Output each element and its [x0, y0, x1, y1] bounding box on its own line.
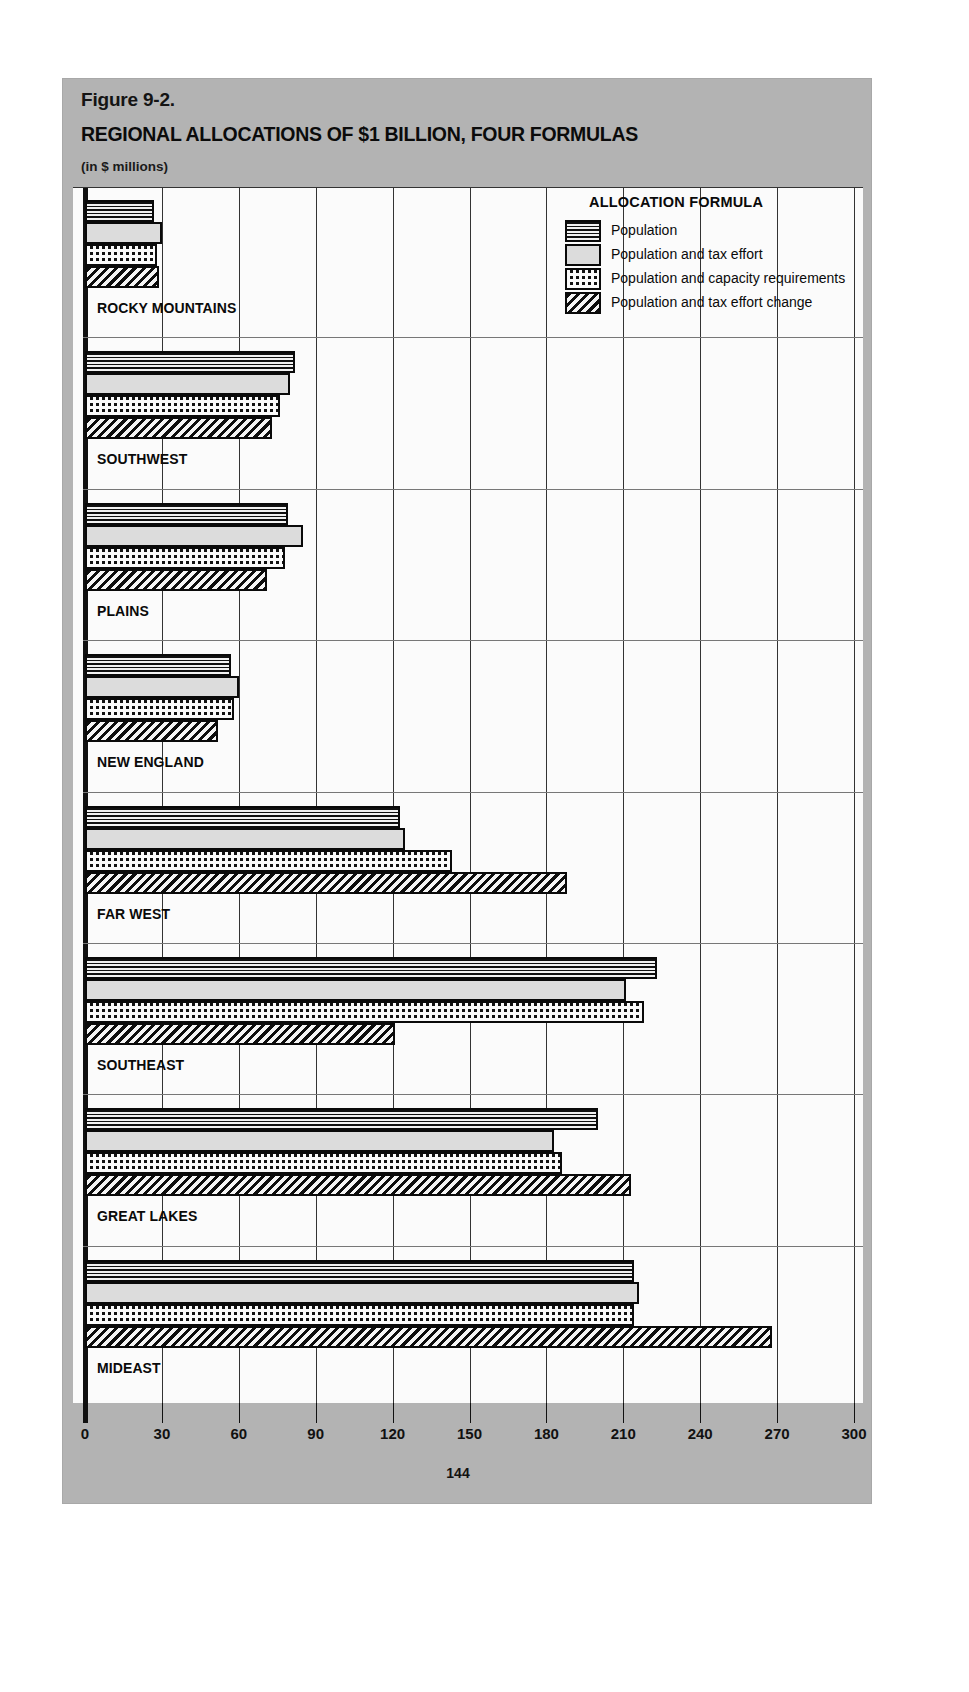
- figure-panel: Figure 9-2. REGIONAL ALLOCATIONS OF $1 B…: [62, 78, 872, 1504]
- bar: [85, 850, 452, 872]
- x-axis: 0306090120150180210240270300: [73, 1403, 863, 1461]
- x-tick-label-0: 0: [81, 1425, 89, 1442]
- bar: [85, 957, 657, 979]
- page-number: 144: [63, 1465, 853, 1481]
- bar: [85, 266, 159, 288]
- bar: [85, 720, 218, 742]
- category-label: SOUTHWEST: [97, 451, 187, 467]
- bar: [85, 698, 234, 720]
- x-tick-label-90: 90: [307, 1425, 324, 1442]
- legend-title: ALLOCATION FORMULA: [589, 194, 763, 210]
- category-label: FAR WEST: [97, 906, 170, 922]
- x-tick-label-150: 150: [457, 1425, 482, 1442]
- x-tick-30: [162, 1403, 163, 1423]
- x-tick-label-180: 180: [534, 1425, 559, 1442]
- gridline-90: [316, 188, 317, 1403]
- group-separator: [83, 792, 863, 793]
- legend-label: Population: [611, 222, 677, 238]
- bar: [85, 1023, 395, 1045]
- category-label: SOUTHEAST: [97, 1057, 184, 1073]
- legend-label: Population and tax effort change: [611, 294, 812, 310]
- bar: [85, 1326, 772, 1348]
- category-label: NEW ENGLAND: [97, 754, 204, 770]
- gridline-150: [470, 188, 471, 1403]
- figure-page: Figure 9-2. REGIONAL ALLOCATIONS OF $1 B…: [0, 0, 969, 1692]
- x-tick-210: [623, 1403, 624, 1423]
- bar: [85, 222, 162, 244]
- legend-label: Population and tax effort: [611, 246, 763, 262]
- x-tick-60: [239, 1403, 240, 1423]
- bar: [85, 1152, 562, 1174]
- bar: [85, 569, 267, 591]
- bar: [85, 351, 295, 373]
- chart-plot-area: ROCKY MOUNTAINSSOUTHWESTPLAINSNEW ENGLAN…: [73, 187, 863, 1403]
- group-separator: [83, 1094, 863, 1095]
- bar: [85, 676, 239, 698]
- gridline-240: [700, 188, 701, 1403]
- bar: [85, 200, 154, 222]
- bar: [85, 806, 400, 828]
- x-tick-240: [700, 1403, 701, 1423]
- category-label: PLAINS: [97, 603, 149, 619]
- bar: [85, 417, 272, 439]
- gridline-180: [546, 188, 547, 1403]
- x-tick-label-30: 30: [154, 1425, 171, 1442]
- legend-label: Population and capacity requirements: [611, 270, 845, 286]
- category-label: MIDEAST: [97, 1360, 161, 1376]
- x-tick-150: [470, 1403, 471, 1423]
- figure-label: Figure 9-2.: [81, 89, 175, 111]
- chart-canvas: ROCKY MOUNTAINSSOUTHWESTPLAINSNEW ENGLAN…: [73, 188, 863, 1403]
- bar: [85, 547, 285, 569]
- x-tick-label-60: 60: [230, 1425, 247, 1442]
- group-separator: [83, 489, 863, 490]
- bar: [85, 872, 567, 894]
- figure-units: (in $ millions): [81, 159, 168, 174]
- bar: [85, 654, 231, 676]
- x-tick-0: [83, 1403, 88, 1423]
- x-tick-label-300: 300: [841, 1425, 866, 1442]
- gridline-210: [623, 188, 624, 1403]
- legend-swatch-checkerboard: [565, 268, 601, 290]
- bar: [85, 828, 405, 850]
- x-tick-120: [393, 1403, 394, 1423]
- category-label: GREAT LAKES: [97, 1208, 197, 1224]
- figure-title: REGIONAL ALLOCATIONS OF $1 BILLION, FOUR…: [81, 123, 638, 146]
- legend-swatch-solid-light-gray: [565, 244, 601, 266]
- x-tick-label-240: 240: [688, 1425, 713, 1442]
- group-separator: [83, 640, 863, 641]
- legend-swatch-diagonal-hatch: [565, 292, 601, 314]
- bar: [85, 1260, 634, 1282]
- group-separator: [83, 943, 863, 944]
- x-tick-270: [777, 1403, 778, 1423]
- legend-swatch-horizontal-lines: [565, 220, 601, 242]
- gridline-300: [854, 188, 855, 1403]
- bar: [85, 503, 288, 525]
- bar: [85, 395, 280, 417]
- bar: [85, 244, 157, 266]
- x-tick-label-120: 120: [380, 1425, 405, 1442]
- group-separator: [83, 337, 863, 338]
- gridline-270: [777, 188, 778, 1403]
- bar: [85, 1001, 644, 1023]
- bar: [85, 1282, 639, 1304]
- bar: [85, 979, 626, 1001]
- bar: [85, 1108, 598, 1130]
- bar: [85, 1130, 554, 1152]
- x-tick-label-210: 210: [611, 1425, 636, 1442]
- bar: [85, 1174, 631, 1196]
- bar: [85, 373, 290, 395]
- gridline-120: [393, 188, 394, 1403]
- x-tick-300: [854, 1403, 855, 1423]
- group-separator: [83, 1246, 863, 1247]
- x-tick-label-270: 270: [765, 1425, 790, 1442]
- x-tick-180: [546, 1403, 547, 1423]
- category-label: ROCKY MOUNTAINS: [97, 300, 236, 316]
- bar: [85, 525, 303, 547]
- x-tick-90: [316, 1403, 317, 1423]
- bar: [85, 1304, 634, 1326]
